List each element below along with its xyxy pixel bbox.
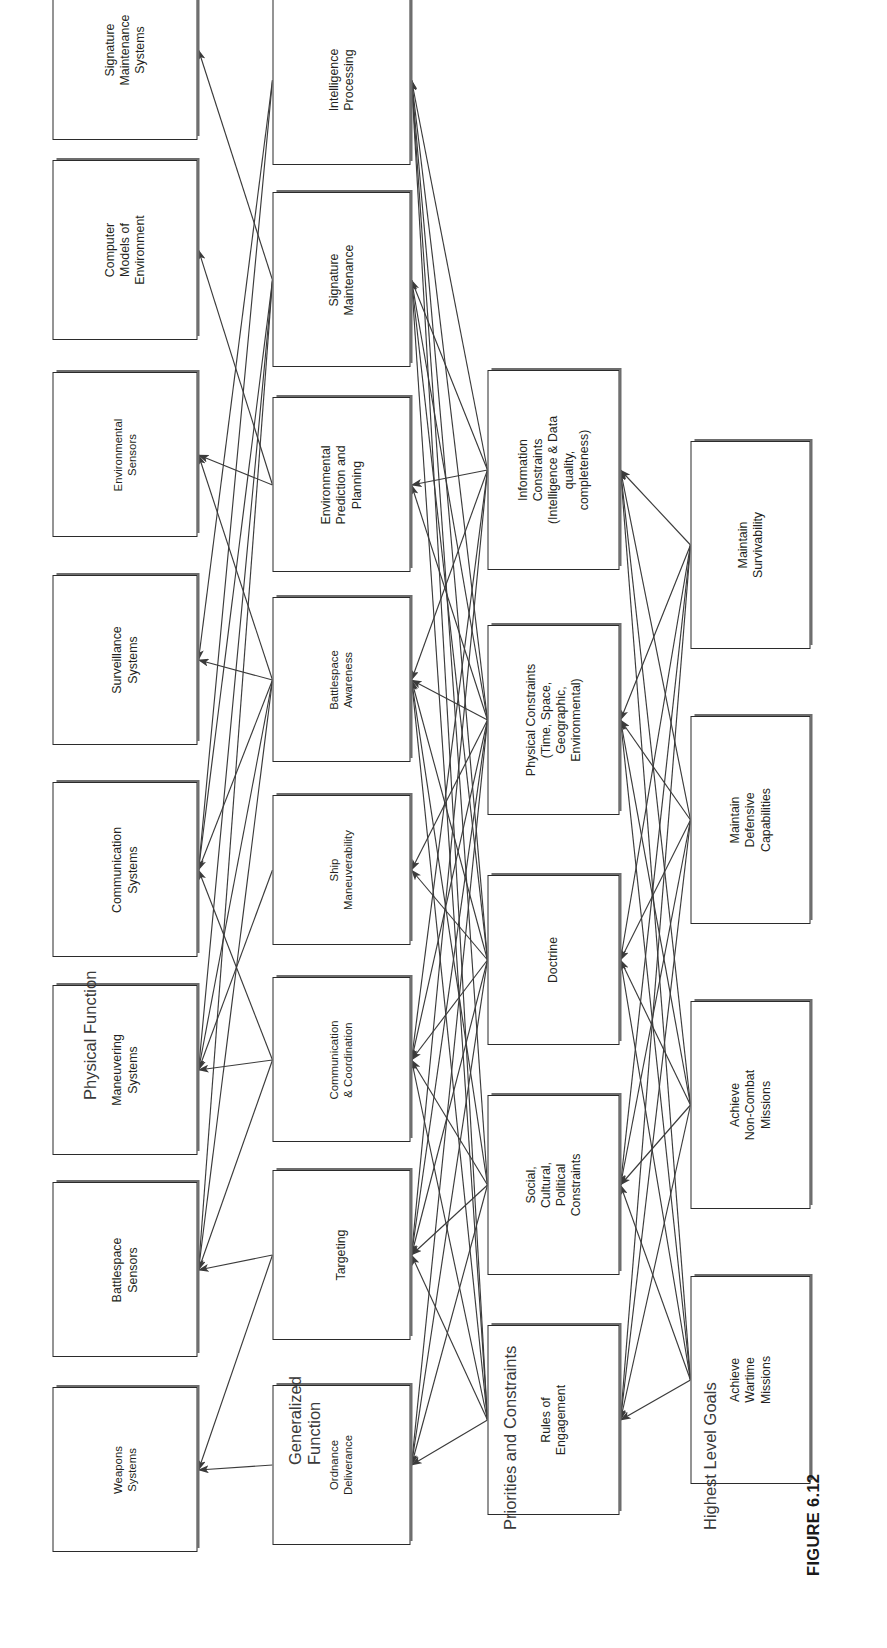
edge-p2-to-f8 [411, 80, 487, 1185]
node-label: Intelligence Processing [326, 45, 356, 116]
edge-f2-to-h1 [198, 1255, 272, 1470]
edge-f5-to-h3 [198, 680, 272, 1070]
node-h5[interactable]: Surveillance Systems [52, 575, 197, 745]
node-g2[interactable]: Achieve Non-Combat Missions [690, 1001, 810, 1209]
node-p2[interactable]: Social, Cultural, Political Constraints [487, 1095, 619, 1275]
node-h3[interactable]: Maneuvering Systems [52, 985, 197, 1155]
edge-g4-to-p5 [620, 470, 690, 545]
figure-page: Achieve Wartime MissionsAchieve Non-Comb… [0, 0, 887, 1648]
node-label: Weapons Systems [111, 1442, 138, 1498]
node-f5[interactable]: Battlespace Awareness [272, 598, 410, 763]
node-f2[interactable]: Targeting [272, 1170, 410, 1340]
edge-f2-to-h2 [198, 1255, 272, 1270]
edge-g1-to-p5 [620, 470, 690, 1380]
node-p5[interactable]: Information Constraints (Intelligence & … [487, 370, 619, 570]
edge-g1-to-p3 [620, 960, 690, 1380]
node-h1[interactable]: Weapons Systems [52, 1388, 197, 1553]
edge-g3-to-p3 [620, 820, 690, 960]
node-label: Battlespace Awareness [327, 646, 354, 714]
edge-g3-to-p4 [620, 720, 690, 820]
node-label: Environmental Prediction and Planning [318, 441, 363, 528]
node-label: Ship Maneuverability [327, 826, 354, 914]
node-label: Communication Systems [109, 823, 139, 917]
node-label: Computer Models of Environment [102, 211, 147, 289]
node-label: Maneuvering Systems [109, 1030, 139, 1110]
node-p4[interactable]: Physical Constraints (Time, Space, Geogr… [487, 625, 619, 815]
node-label: Physical Constraints (Time, Space, Geogr… [523, 660, 584, 780]
tier-label-goals: Highest Level Goals [700, 1382, 719, 1530]
edge-g1-to-p2 [620, 1185, 690, 1380]
node-f7[interactable]: Signature Maintenance [272, 193, 410, 368]
edge-g1-to-p1 [620, 1380, 690, 1420]
node-f8[interactable]: Intelligence Processing [272, 0, 410, 165]
node-label: Maintain Survivability [735, 508, 765, 582]
figure-caption-text: FIGURE 6.12 [804, 1474, 823, 1576]
edge-p1-to-f5 [411, 680, 487, 1420]
edge-g4-to-p1 [620, 545, 690, 1420]
tier-label-generalized-function: Generalized Function [285, 1376, 324, 1465]
edge-p5-to-f6 [411, 470, 487, 485]
edge-f8-to-h4 [198, 80, 272, 870]
node-label: Doctrine [545, 933, 560, 987]
edge-f6-to-h7 [198, 250, 272, 485]
edge-p4-to-f2 [411, 720, 487, 1255]
node-label: Signature Maintenance Systems [102, 11, 147, 90]
node-h2[interactable]: Battlespace Sensors [52, 1183, 197, 1358]
edge-f5-to-h6 [198, 455, 272, 680]
node-g4[interactable]: Maintain Survivability [690, 441, 810, 649]
edge-g2-to-p2 [620, 1105, 690, 1185]
node-label: Signature Maintenance [326, 241, 356, 320]
tier-label-priorities: Priorities and Constraints [500, 1346, 519, 1530]
node-h4[interactable]: Communication Systems [52, 783, 197, 958]
figure-caption: FIGURE 6.12 [0, 1562, 887, 1648]
edge-p5-to-f2 [411, 470, 487, 1255]
node-g3[interactable]: Maintain Defensive Capabilities [690, 716, 810, 924]
node-label: Achieve Non-Combat Missions [727, 1066, 772, 1144]
edge-f3-to-h2 [198, 1060, 272, 1270]
node-h7[interactable]: Computer Models of Environment [52, 160, 197, 340]
node-p3[interactable]: Doctrine [487, 875, 619, 1045]
node-label: Social, Cultural, Political Constraints [523, 1150, 584, 1221]
node-label: Maintain Defensive Capabilities [727, 784, 772, 856]
edge-f3-to-h3 [198, 1060, 272, 1070]
edge-p4-to-f5 [411, 680, 487, 720]
node-h8[interactable]: Signature Maintenance Systems [52, 0, 197, 140]
node-f6[interactable]: Environmental Prediction and Planning [272, 398, 410, 573]
node-label: Rules of Engagement [538, 1381, 568, 1459]
diagram-stage-wrapper: Achieve Wartime MissionsAchieve Non-Comb… [0, 0, 887, 1560]
node-f3[interactable]: Communication & Coordination [272, 978, 410, 1143]
edge-g4-to-p4 [620, 545, 690, 720]
edge-f4-to-h3 [198, 870, 272, 1070]
edge-f3-to-h4 [198, 870, 272, 1060]
edge-p2-to-f3 [411, 1060, 487, 1185]
edge-f7-to-h8 [198, 50, 272, 280]
node-label: Ordnance Deliverance [327, 1431, 354, 1499]
node-label: Achieve Wartime Missions [727, 1352, 772, 1408]
edge-p2-to-f1 [411, 1185, 487, 1465]
node-label: Surveillance Systems [109, 622, 139, 698]
edge-f1-to-h1 [198, 1465, 272, 1470]
node-label: Information Constraints (Intelligence & … [515, 412, 591, 528]
edge-f7-to-h3 [198, 280, 272, 1070]
edge-p5-to-f3 [411, 470, 487, 1060]
edge-g2-to-p5 [620, 470, 690, 1105]
edge-p4-to-f1 [411, 720, 487, 1465]
node-label: Targeting [333, 1226, 348, 1285]
abstraction-hierarchy-diagram: Achieve Wartime MissionsAchieve Non-Comb… [0, 0, 887, 1560]
edge-f5-to-h2 [198, 680, 272, 1270]
node-label: Battlespace Sensors [109, 1234, 139, 1307]
node-label: Environmental Sensors [111, 415, 138, 496]
edge-p4-to-f7 [411, 280, 487, 720]
node-h6[interactable]: Environmental Sensors [52, 373, 197, 538]
node-f4[interactable]: Ship Maneuverability [272, 795, 410, 945]
node-label: Communication & Coordination [327, 1016, 354, 1103]
edge-g2-to-p1 [620, 1105, 690, 1420]
tier-label-physical-function: Physical Function [80, 971, 99, 1100]
